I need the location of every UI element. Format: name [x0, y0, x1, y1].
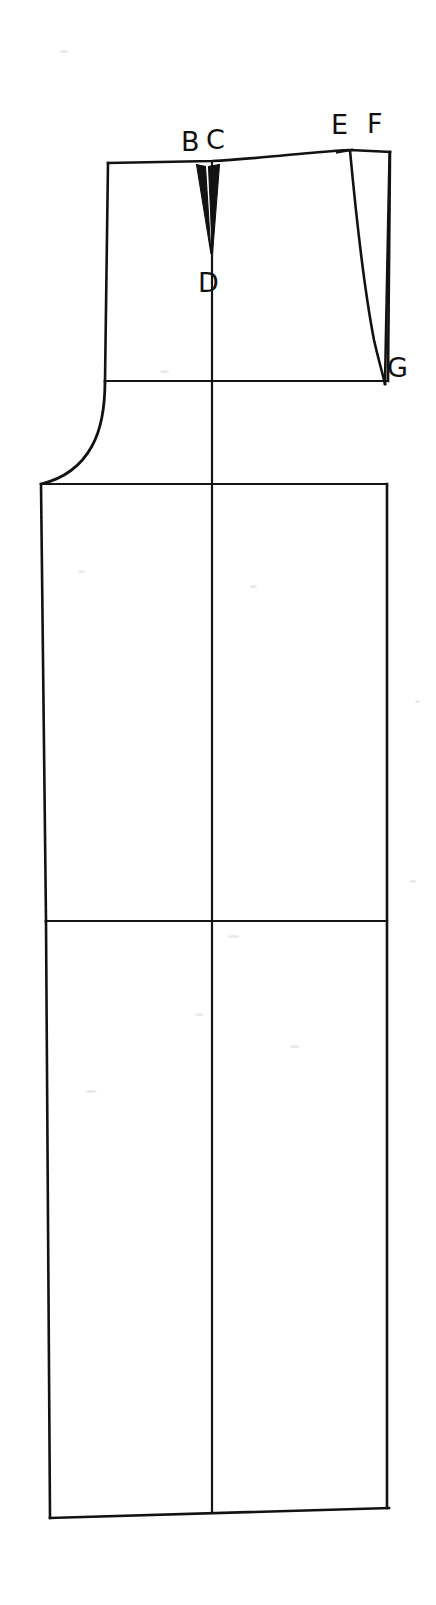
point-label-b: B — [181, 128, 200, 155]
side-dart-inner-edge — [350, 151, 385, 385]
paper-speck — [85, 1090, 97, 1093]
paper-speck — [290, 1045, 300, 1048]
left-lower-side-edge — [41, 484, 46, 921]
hem-line — [50, 1508, 389, 1518]
point-label-f: F — [367, 110, 383, 137]
paper-speck — [160, 370, 169, 373]
point-label-e: E — [331, 111, 348, 138]
paper-speck — [250, 585, 257, 588]
paper-speck — [415, 700, 420, 703]
paper-speck — [195, 1013, 204, 1016]
paper-speck — [60, 50, 68, 53]
pattern-vector-drawing — [0, 0, 436, 1605]
left-hem-side-edge — [46, 921, 50, 1518]
paper-speck — [228, 935, 239, 938]
point-label-c: C — [206, 126, 225, 153]
paper-speck — [410, 880, 416, 883]
side-seam-curve — [41, 381, 105, 484]
waistline-path — [108, 150, 390, 163]
left-upper-side-edge — [105, 163, 108, 381]
pattern-drawing-canvas: B C D E F G — [0, 0, 436, 1605]
point-label-g: G — [387, 354, 408, 381]
point-label-d: D — [198, 269, 219, 296]
paper-speck — [78, 570, 85, 573]
